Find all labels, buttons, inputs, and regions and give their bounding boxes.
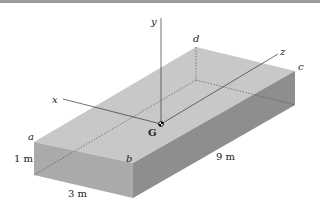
point-label-c: c (298, 61, 304, 72)
point-label-a: a (28, 131, 34, 142)
centroid-marker-icon (159, 122, 164, 127)
point-label-G: G (148, 127, 157, 138)
dimension-height: 1 m (14, 153, 34, 164)
point-label-b: b (126, 153, 132, 164)
dimension-width: 3 m (68, 188, 88, 199)
axis-label-x: x (52, 94, 58, 105)
axis-label-y: y (150, 16, 157, 27)
axis-label-z: z (279, 46, 286, 57)
rectangular-block-diagram: y x z d c a b G 1 m 3 m 9 m (0, 0, 320, 212)
point-label-d: d (193, 33, 199, 44)
dimension-length: 9 m (216, 151, 236, 162)
